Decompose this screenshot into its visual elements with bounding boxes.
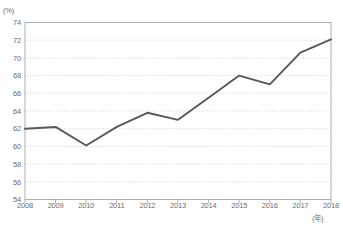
x-axis-tick-label: 2014	[201, 201, 217, 210]
series-polyline	[25, 39, 331, 145]
y-axis-tick-label: 58	[13, 160, 21, 169]
y-axis-tick-label: 72	[13, 36, 21, 45]
y-axis-tick-labels: 5456586062646668707274	[13, 18, 21, 204]
x-axis-tick-label: 2010	[78, 201, 94, 210]
x-axis-tick-label: 2008	[17, 201, 33, 210]
y-axis-tick-label: 56	[13, 178, 21, 187]
x-axis-tick-label: 2017	[292, 201, 308, 210]
y-axis-tick-label: 74	[13, 18, 21, 27]
x-axis-tick-label: 2013	[170, 201, 186, 210]
x-axis-tick-label: 2012	[139, 201, 155, 210]
y-axis-tick-label: 62	[13, 124, 21, 133]
x-axis-tick-label: 2009	[48, 201, 64, 210]
gridlines	[25, 40, 331, 182]
x-axis-tick-label: 2016	[262, 201, 278, 210]
x-axis-tick-labels: 2008200920102011201220132014201520162017…	[17, 201, 339, 210]
y-axis-tick-label: 66	[13, 89, 21, 98]
y-axis-tick-label: 70	[13, 54, 21, 63]
x-axis-tick-label: 2011	[109, 201, 124, 210]
plot-area: 5456586062646668707274 20082009201020112…	[0, 0, 343, 229]
line-chart: (%) (年) 5456586062646668707274 200820092…	[0, 0, 343, 229]
x-axis-tick-label: 2015	[231, 201, 247, 210]
y-axis-tick-label: 68	[13, 71, 21, 80]
data-series-line	[25, 39, 331, 145]
y-axis-tick-label: 64	[13, 107, 21, 116]
x-axis-tick-label: 2018	[323, 201, 339, 210]
y-axis-tick-label: 60	[13, 142, 21, 151]
